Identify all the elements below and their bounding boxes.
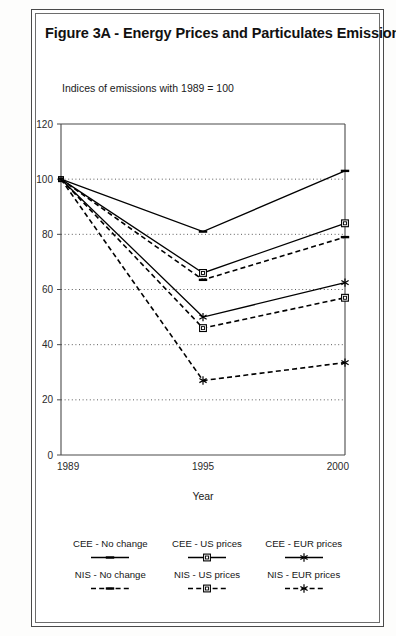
legend-item: NIS - US prices <box>159 569 256 595</box>
legend-item-label: NIS - No change <box>62 569 159 581</box>
legend-item-label: CEE - EUR prices <box>255 538 352 550</box>
legend-item: CEE - EUR prices <box>255 538 352 564</box>
legend-asterisk-marker-icon <box>255 582 352 595</box>
legend-square-marker-icon <box>159 551 256 564</box>
figure-frame-inner <box>35 13 380 623</box>
figure-page: Figure 3A - Energy Prices and Particulat… <box>0 0 396 636</box>
legend-row-nis: NIS - No changeNIS - US pricesNIS - EUR … <box>62 569 352 595</box>
legend-dash-marker-icon <box>62 551 159 564</box>
legend-dash-marker-icon <box>62 582 159 595</box>
page-title: Figure 3A - Energy Prices and Particulat… <box>45 25 375 41</box>
legend-row-cee: CEE - No changeCEE - US pricesCEE - EUR … <box>62 538 352 564</box>
legend-item: NIS - No change <box>62 569 159 595</box>
legend-asterisk-marker-icon <box>255 551 352 564</box>
legend-item: CEE - US prices <box>159 538 256 564</box>
legend-item: NIS - EUR prices <box>255 569 352 595</box>
legend-item-label: CEE - US prices <box>159 538 256 550</box>
chart-subtitle: Indices of emissions with 1989 = 100 <box>62 82 234 94</box>
chart-legend: CEE - No changeCEE - US pricesCEE - EUR … <box>62 538 352 600</box>
legend-item-label: NIS - US prices <box>159 569 256 581</box>
legend-item-label: NIS - EUR prices <box>255 569 352 581</box>
legend-item: CEE - No change <box>62 538 159 564</box>
legend-square-marker-icon <box>159 582 256 595</box>
legend-item-label: CEE - No change <box>62 538 159 550</box>
